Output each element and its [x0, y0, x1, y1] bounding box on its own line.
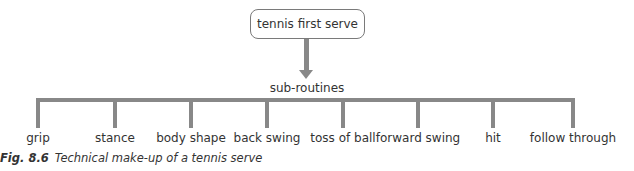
branch-tick — [36, 98, 40, 128]
figure-caption: Fig. 8.6Technical make-up of a tennis se… — [0, 151, 262, 165]
branch-tick — [341, 98, 345, 128]
branch-label: stance — [95, 131, 135, 145]
branch-label: hit — [485, 131, 501, 145]
branch-label: toss of ball — [310, 131, 375, 145]
branch-tick — [416, 98, 420, 128]
branch-tick — [571, 98, 575, 128]
root-node-label: tennis first serve — [257, 17, 358, 31]
branch-tick — [265, 98, 269, 128]
connector-label: sub-routines — [255, 81, 359, 95]
root-node: tennis first serve — [250, 9, 365, 39]
branch-label: follow through — [530, 131, 616, 145]
branch-label: grip — [26, 131, 50, 145]
figure-number: Fig. 8.6 — [0, 151, 49, 165]
arrow-shaft — [304, 39, 309, 71]
branch-tick — [113, 98, 117, 128]
branch-label: forward swing — [376, 131, 460, 145]
arrow-down-icon — [299, 70, 313, 79]
branch-tick — [491, 98, 495, 128]
branch-label: body shape — [156, 131, 226, 145]
branch-tick — [189, 98, 193, 128]
figure-caption-text: Technical make-up of a tennis serve — [55, 151, 263, 165]
branch-label: back swing — [234, 131, 301, 145]
